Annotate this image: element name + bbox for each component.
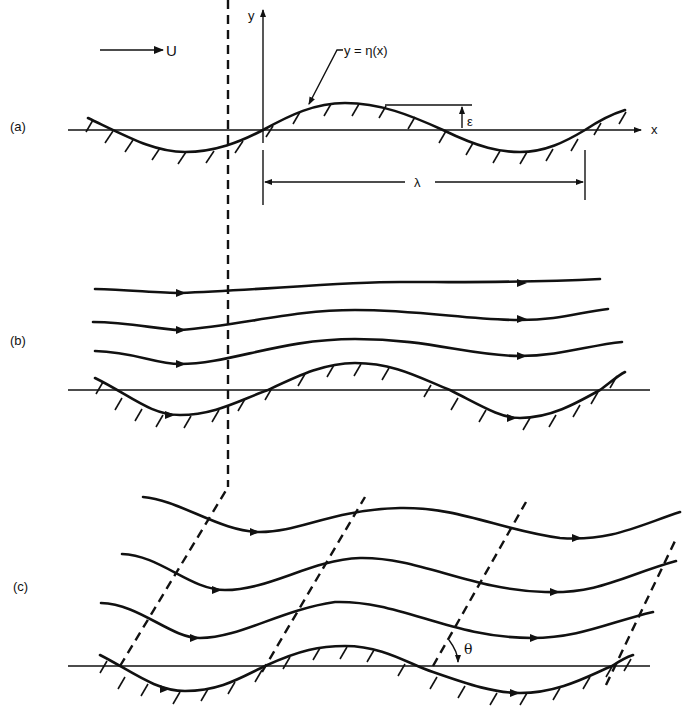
equation-leader-line: [309, 50, 343, 104]
wall-hatching-b: [96, 364, 617, 430]
flow-arrow-wall-b1: [165, 411, 175, 419]
dashed-line-3: [433, 502, 526, 666]
panel-label-a: (a): [10, 119, 26, 134]
streamline-3: [95, 339, 622, 364]
wavelength-label: λ: [414, 175, 421, 190]
flow-arrow-wall-b2: [507, 414, 517, 422]
wavy-wall-surface-c: [100, 646, 633, 693]
y-axis-label: y: [248, 8, 255, 23]
panel-label-c: (c): [13, 579, 28, 594]
wall-hatching-c: [100, 647, 631, 705]
panel-label-b: (b): [10, 333, 26, 348]
surface-equation-label: y = η(x): [344, 43, 388, 58]
x-axis-label: x: [651, 122, 658, 137]
streamline-c2: [122, 554, 676, 592]
free-stream-label: U: [166, 42, 177, 59]
dashed-line-1: [120, 487, 228, 666]
amplitude-label: ε: [467, 114, 473, 129]
streamline-2: [93, 309, 608, 330]
streamline-c1: [143, 497, 680, 539]
panel-a: (a) U y x: [10, 8, 658, 205]
wall-hatching: [86, 104, 626, 164]
angle-arc: [449, 640, 458, 662]
streamline-1: [95, 279, 600, 293]
wavy-wall-surface: [88, 103, 625, 152]
wavy-wall-flow-diagram: (a) U y x: [0, 0, 695, 722]
streamline-c3: [101, 602, 653, 638]
angle-label: θ: [464, 641, 472, 657]
panel-b: (b): [10, 279, 650, 430]
flow-arrows-c: [190, 528, 582, 642]
